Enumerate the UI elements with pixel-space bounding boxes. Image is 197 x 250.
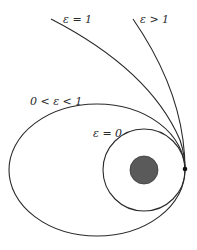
central-body bbox=[130, 156, 158, 184]
orbit-diagram bbox=[0, 0, 197, 250]
ellipse-label: 0 < ε < 1 bbox=[30, 96, 82, 107]
periapsis-point bbox=[183, 167, 188, 172]
ellipse-orbit bbox=[9, 104, 185, 236]
circle-label: ε = 0 bbox=[93, 128, 122, 139]
parabola-label: ε = 1 bbox=[63, 14, 92, 25]
parabolic-trajectory bbox=[51, 19, 185, 169]
hyperbola-label: ε > 1 bbox=[140, 14, 169, 25]
